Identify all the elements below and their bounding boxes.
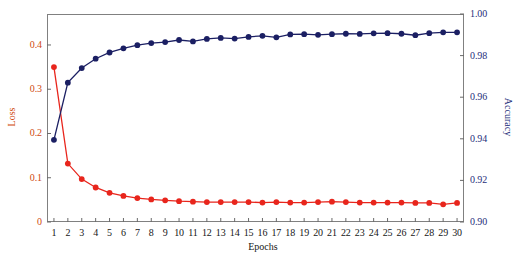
y-tick-right-5: 1.00: [470, 9, 487, 19]
y-tick-left-3: 0.3: [0, 84, 42, 94]
y-tick-left-1: 0.1: [0, 173, 42, 183]
y-tick-right-0: 0.90: [470, 217, 487, 227]
y-tick-right-1: 0.92: [470, 175, 487, 185]
y-tick-right-3: 0.96: [470, 92, 487, 102]
y-tick-right-2: 0.94: [470, 134, 487, 144]
y-tick-left-4: 0.4: [0, 40, 42, 50]
y-axis-left-title: Loss: [7, 97, 17, 137]
y-axis-right-title: Accuracy: [503, 89, 513, 145]
y-tick-right-4: 0.98: [470, 51, 487, 61]
x-axis-title: Epochs: [233, 242, 293, 252]
y-tick-left-0: 0: [0, 217, 42, 227]
plot-area: [47, 14, 464, 222]
x-tick-30: 30: [447, 228, 467, 238]
